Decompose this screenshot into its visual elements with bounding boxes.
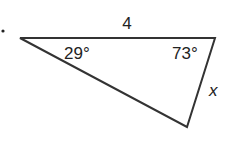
- side-top-label: 4: [122, 14, 131, 33]
- bullet-dot: [1, 29, 4, 32]
- angle-left-label: 29°: [64, 44, 90, 63]
- triangle-diagram: 4 29° 73° x: [0, 0, 232, 141]
- side-right-label: x: [208, 81, 218, 100]
- angle-right-label: 73°: [172, 44, 198, 63]
